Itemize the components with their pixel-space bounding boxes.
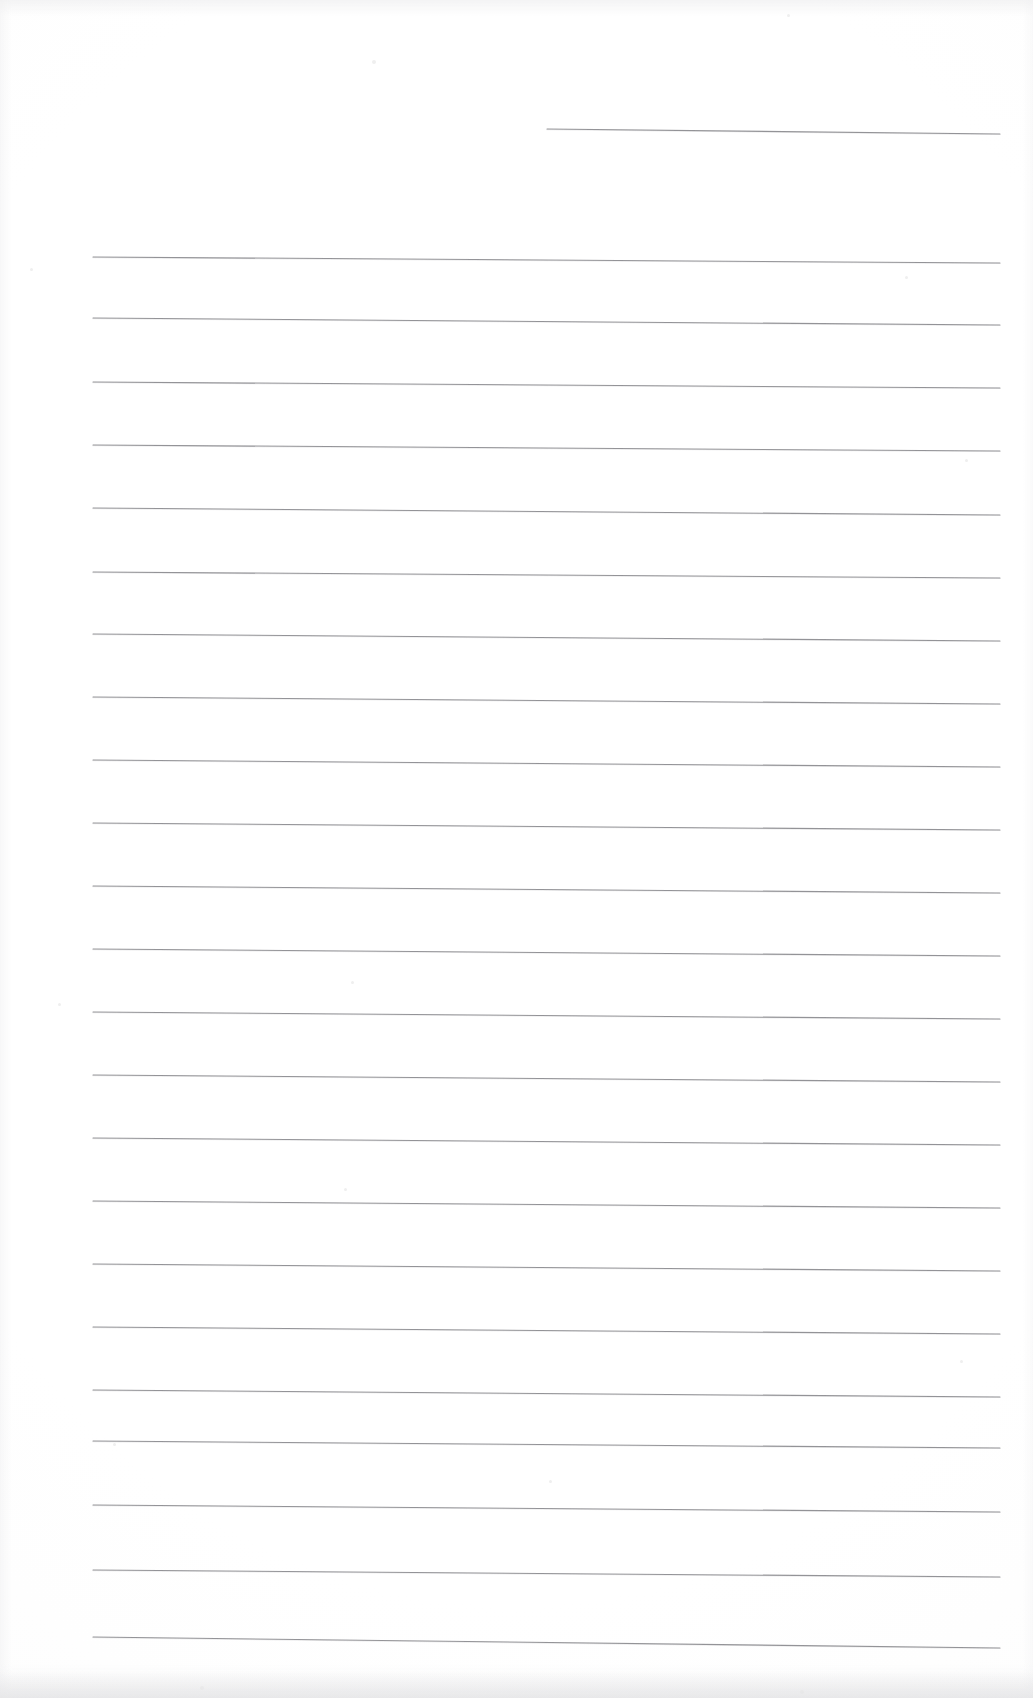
scan-speck: [965, 459, 968, 462]
rule-line: [93, 753, 1000, 767]
rule-line: [93, 1383, 1000, 1397]
scan-speck: [372, 60, 376, 64]
scan-noise-overlay: [0, 0, 1033, 1698]
scan-speck: [30, 268, 33, 271]
scan-speck: [113, 1443, 116, 1446]
rule-line: [93, 1131, 1000, 1145]
scanned-page: [0, 0, 1033, 1698]
rule-line: [93, 565, 1000, 579]
sheet-bottom-edge-shadow: [0, 1672, 1033, 1698]
rule-line: [93, 1630, 1000, 1644]
rule-line: [93, 1320, 1000, 1334]
scan-speck: [200, 1686, 204, 1690]
rule-line: [93, 501, 1000, 515]
scan-speck: [787, 14, 790, 17]
rule-line: [93, 816, 1000, 830]
scan-speck: [351, 981, 354, 984]
rule-line: [93, 1194, 1000, 1208]
rule-line: [93, 1068, 1000, 1082]
rule-line: [93, 438, 1000, 452]
partial-top-rule-line: [547, 122, 1000, 136]
rule-line: [93, 1257, 1000, 1271]
rule-line: [93, 1434, 1000, 1448]
rule-line: [93, 1498, 1000, 1512]
rule-line: [93, 375, 1000, 389]
paper-background: [0, 0, 1033, 1698]
rule-line: [93, 250, 1000, 264]
rule-line: [93, 1005, 1000, 1019]
rule-line: [93, 1563, 1000, 1577]
scan-speck: [800, 1690, 804, 1694]
rule-line: [93, 627, 1000, 641]
scan-speck: [905, 276, 908, 279]
rule-line: [93, 690, 1000, 704]
scan-speck: [549, 1480, 552, 1483]
rule-line: [93, 879, 1000, 893]
rule-line: [93, 942, 1000, 956]
scan-speck: [58, 1003, 61, 1006]
scan-speck: [960, 1360, 963, 1363]
scan-speck: [344, 1188, 347, 1191]
rule-line: [93, 311, 1000, 325]
